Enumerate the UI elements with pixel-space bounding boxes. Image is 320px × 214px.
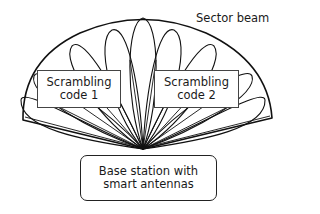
- base-station-box: Base station with smart antennas: [80, 155, 217, 201]
- sector-beam-label: Sector beam: [196, 11, 269, 25]
- base-station-line1: Base station with: [99, 165, 198, 179]
- base-station-line2: smart antennas: [103, 178, 194, 192]
- scrambling-code-2-line2: code 2: [177, 89, 216, 103]
- scrambling-code-2-line1: Scrambling: [164, 76, 229, 90]
- scrambling-code-1-line1: Scrambling: [47, 76, 112, 90]
- scrambling-code-1-box: Scrambling code 1: [37, 70, 121, 108]
- scrambling-code-2-box: Scrambling code 2: [154, 70, 239, 108]
- scrambling-code-1-line2: code 1: [60, 89, 99, 103]
